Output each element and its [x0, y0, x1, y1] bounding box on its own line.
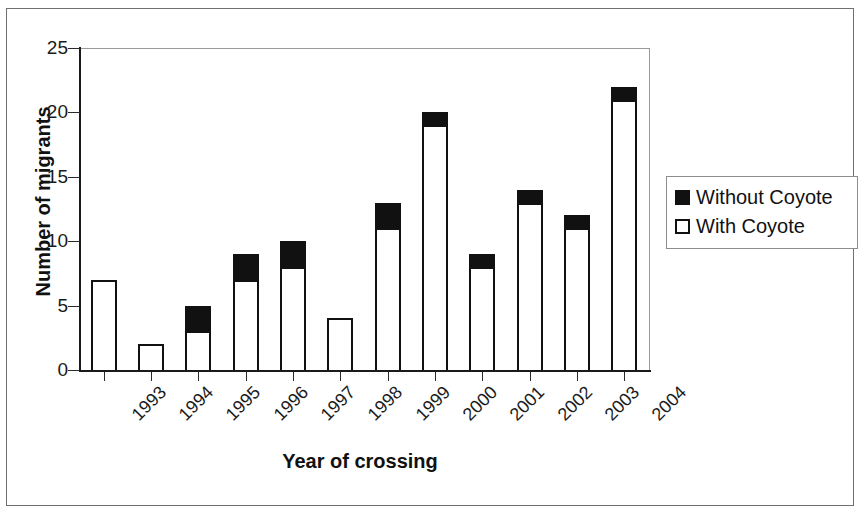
x-axis-tick-label: 1994 [175, 382, 218, 425]
bar-slot [175, 48, 222, 370]
y-axis-tick [68, 306, 80, 307]
bar-segment-with-coyote [469, 267, 495, 370]
legend-label-without-coyote: Without Coyote [696, 186, 833, 209]
bar-slot [80, 48, 127, 370]
x-axis-tick [624, 372, 625, 381]
y-axis-tick [68, 370, 80, 371]
bar-stack[interactable] [611, 87, 637, 370]
legend-item-with-coyote[interactable]: With Coyote [675, 212, 849, 241]
bar-group [80, 48, 648, 370]
bar-stack[interactable] [422, 112, 448, 370]
bar-slot [601, 48, 648, 370]
bar-slot [364, 48, 411, 370]
y-axis-tick-label: 0 [22, 360, 68, 379]
bar-segment-with-coyote [564, 228, 590, 370]
x-axis-tick [388, 372, 389, 381]
bar-stack[interactable] [564, 215, 590, 370]
y-axis-tick [68, 177, 80, 178]
y-axis-tick-label: 20 [22, 102, 68, 121]
bar-stack[interactable] [233, 254, 259, 370]
legend-label-with-coyote: With Coyote [696, 215, 805, 238]
y-axis-tick-label: 10 [22, 231, 68, 250]
x-axis-tick-label: 1998 [364, 382, 407, 425]
bar-segment-with-coyote [611, 100, 637, 370]
legend-item-without-coyote[interactable]: Without Coyote [675, 183, 849, 212]
bar-stack[interactable] [469, 254, 495, 370]
bar-slot [553, 48, 600, 370]
x-axis-tick-label: 2004 [648, 382, 691, 425]
x-axis-title: Year of crossing [0, 450, 720, 473]
x-axis-tick [104, 372, 105, 381]
bar-segment-with-coyote [375, 228, 401, 370]
bar-stack[interactable] [327, 318, 353, 370]
bar-segment-without-coyote [422, 112, 448, 125]
y-axis-tick [68, 112, 80, 113]
x-axis-tick [151, 372, 152, 381]
bar-segment-without-coyote [517, 190, 543, 203]
bar-segment-without-coyote [375, 203, 401, 229]
x-axis-tick-label: 2002 [553, 382, 596, 425]
bar-slot [269, 48, 316, 370]
bar-segment-without-coyote [611, 87, 637, 100]
y-axis-tick-label: 25 [22, 38, 68, 57]
bar-stack[interactable] [375, 203, 401, 370]
filled-square-icon [675, 190, 690, 205]
x-axis-tick [246, 372, 247, 381]
bar-stack[interactable] [91, 280, 117, 370]
bar-segment-with-coyote [233, 280, 259, 370]
x-axis-tick [293, 372, 294, 381]
bar-stack[interactable] [185, 306, 211, 370]
x-axis-tick-label: 2000 [459, 382, 502, 425]
bar-slot [222, 48, 269, 370]
bar-segment-with-coyote [327, 318, 353, 370]
bar-segment-with-coyote [185, 331, 211, 370]
open-square-icon [675, 219, 690, 234]
bar-slot [506, 48, 553, 370]
bar-slot [411, 48, 458, 370]
bar-stack[interactable] [517, 190, 543, 370]
bar-segment-without-coyote [185, 306, 211, 332]
x-axis-tick [340, 372, 341, 381]
x-axis-tick-label: 2003 [601, 382, 644, 425]
bar-segment-without-coyote [280, 241, 306, 267]
x-axis-tick-label: 1993 [127, 382, 170, 425]
bar-segment-with-coyote [422, 125, 448, 370]
bar-segment-with-coyote [138, 344, 164, 370]
x-axis-tick-label: 1996 [269, 382, 312, 425]
x-axis-tick-label: 1997 [317, 382, 360, 425]
x-axis-tick-label: 1999 [411, 382, 454, 425]
y-axis-tick-label: 15 [22, 167, 68, 186]
x-axis-tick [577, 372, 578, 381]
bar-segment-with-coyote [517, 203, 543, 370]
bar-segment-with-coyote [280, 267, 306, 370]
x-axis-tick [198, 372, 199, 381]
bar-segment-with-coyote [91, 280, 117, 370]
y-axis-tick [68, 241, 80, 242]
x-axis-tick [530, 372, 531, 381]
x-axis-tick [435, 372, 436, 381]
x-axis-line [79, 370, 651, 372]
y-axis-labels: 0510152025 [10, 0, 68, 516]
y-axis-tick-label: 5 [22, 296, 68, 315]
x-axis-tick [482, 372, 483, 381]
bar-stack[interactable] [138, 344, 164, 370]
chart-legend: Without Coyote With Coyote [666, 176, 858, 249]
bar-segment-without-coyote [469, 254, 495, 267]
bar-slot [459, 48, 506, 370]
chart-page: Number of migrants 0510152025 Year of cr… [0, 0, 863, 516]
bar-stack[interactable] [280, 241, 306, 370]
y-axis-tick [68, 48, 80, 49]
bar-segment-without-coyote [233, 254, 259, 280]
bar-slot [127, 48, 174, 370]
x-axis-tick-label: 1995 [222, 382, 265, 425]
bar-slot [317, 48, 364, 370]
bar-segment-without-coyote [564, 215, 590, 228]
x-axis-tick-label: 2001 [506, 382, 549, 425]
